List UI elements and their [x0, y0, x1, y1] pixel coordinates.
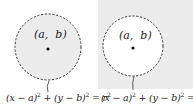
circle-regions-diagram: (a, b) (x − a)2 + (y − b)2 = r2 (a, b) (…	[0, 0, 193, 112]
center-point	[46, 47, 49, 50]
panel-exterior-shaded: (a, b) (x − a)2 + (y − b)2 = r2	[97, 0, 193, 112]
panel-interior-shaded: (a, b) (x − a)2 + (y − b)2 = r2	[0, 0, 97, 112]
circle-equation: (x − a)2 + (y − b)2 = r2	[6, 92, 111, 103]
plus: +	[136, 92, 149, 103]
dashed-circle	[103, 16, 163, 76]
eq-term-x: (x − a)	[101, 92, 132, 103]
eq-term-x: (x − a)	[6, 92, 37, 103]
eq-term-y: (y − b)	[149, 92, 180, 103]
circle-equation: (x − a)2 + (y − b)2 = r2	[101, 92, 193, 103]
center-label: (a, b)	[119, 29, 152, 42]
dashed-circle	[15, 14, 81, 80]
leader-line	[47, 81, 49, 92]
center-label: (a, b)	[34, 28, 67, 41]
equals: =	[184, 92, 193, 103]
eq-term-y: (y − b)	[54, 92, 85, 103]
center-point	[131, 46, 134, 49]
plus: +	[41, 92, 54, 103]
